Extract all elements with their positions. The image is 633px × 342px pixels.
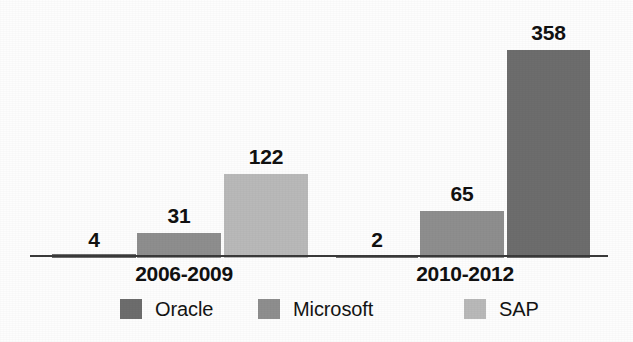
legend: Oracle Microsoft SAP bbox=[0, 294, 633, 328]
legend-swatch-oracle bbox=[120, 299, 142, 319]
x-axis-label-2006-2009: 2006-2009 bbox=[124, 263, 244, 284]
bar-2010-2012-sap[interactable] bbox=[507, 50, 590, 258]
bar-value-2010-2012-microsoft: 65 bbox=[420, 183, 504, 204]
bar-chart: 4 31 122 2 65 358 2006-2009 2010-2012 Or… bbox=[0, 0, 633, 342]
bar-2006-2009-sap[interactable] bbox=[224, 174, 308, 258]
legend-item-oracle[interactable]: Oracle bbox=[120, 294, 213, 324]
legend-item-microsoft[interactable]: Microsoft bbox=[258, 294, 373, 324]
bar-value-2010-2012-oracle: 2 bbox=[336, 229, 418, 250]
legend-label-oracle: Oracle bbox=[155, 299, 213, 319]
legend-swatch-microsoft bbox=[258, 299, 280, 319]
bar-value-2010-2012-sap: 358 bbox=[507, 22, 590, 43]
plot-area: 4 31 122 2 65 358 bbox=[0, 0, 633, 258]
bar-value-2006-2009-microsoft: 31 bbox=[137, 205, 221, 226]
bar-value-2006-2009-oracle: 4 bbox=[52, 229, 136, 250]
legend-item-sap[interactable]: SAP bbox=[464, 294, 539, 324]
legend-swatch-sap bbox=[464, 299, 486, 319]
legend-label-sap: SAP bbox=[499, 299, 539, 319]
x-axis-label-2010-2012: 2010-2012 bbox=[405, 263, 525, 284]
legend-label-microsoft: Microsoft bbox=[293, 299, 373, 319]
bar-2010-2012-microsoft[interactable] bbox=[420, 211, 504, 258]
bar-value-2006-2009-sap: 122 bbox=[224, 146, 308, 167]
x-axis-line bbox=[30, 255, 608, 257]
